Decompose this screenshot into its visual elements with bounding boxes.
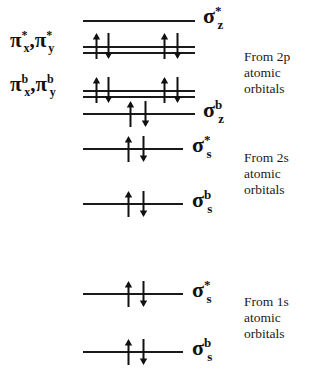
energy-level-sigma-bonding-s-1s — [83, 351, 183, 353]
origin-1s-line3: orbitals — [244, 326, 289, 342]
origin-2p-line3: orbitals — [244, 81, 290, 97]
pi-sub-y: y — [48, 41, 54, 55]
sigma-glyph: σ — [192, 277, 204, 302]
electron-arrow-down — [139, 281, 148, 307]
sigma-glyph: σ — [203, 97, 215, 122]
sigma-glyph: σ — [192, 132, 204, 157]
electron-arrow-up — [160, 33, 169, 59]
subscript-s: s — [206, 146, 211, 161]
superscript-bonding: b — [204, 335, 211, 350]
subscript-s: s — [207, 349, 212, 364]
pi-glyph-x: π — [10, 28, 22, 52]
superscript-star: * — [215, 3, 222, 18]
sigma-glyph: σ — [192, 187, 204, 212]
sigma-glyph: σ — [192, 335, 204, 360]
mo-energy-level-diagram: σ*z π*x,π*y πbx,πby σbz — [0, 0, 313, 376]
superscript-star: * — [204, 277, 211, 292]
energy-level-sigma-star-z — [83, 20, 195, 22]
pi-bonding-sup-y: b — [47, 72, 54, 86]
origin-caption-2s: From 2s atomic orbitals — [244, 150, 289, 198]
electron-arrow-down — [173, 77, 182, 103]
origin-2p-line2: atomic — [244, 65, 290, 81]
label-pi-star-xy: π*x,π*y — [10, 30, 54, 51]
origin-2s-line3: orbitals — [244, 182, 289, 198]
subscript-s: s — [206, 291, 211, 306]
origin-1s-line1: From 1s — [244, 294, 289, 310]
electron-arrow-down — [141, 101, 150, 127]
subscript-z: z — [218, 111, 224, 126]
electron-arrow-up — [126, 101, 135, 127]
electron-arrow-down — [104, 77, 113, 103]
electron-arrow-up — [160, 77, 169, 103]
origin-2s-line2: atomic — [244, 166, 289, 182]
electron-arrow-up — [92, 77, 101, 103]
electron-arrow-up — [124, 191, 133, 217]
origin-2p-line1: From 2p — [244, 49, 290, 65]
energy-level-sigma-star-s-2s — [83, 148, 183, 150]
energy-level-sigma-bonding-s-2s — [83, 203, 183, 205]
label-sigma-bonding-s-1s: σbs — [192, 337, 212, 359]
pi-star-sup-x: * — [22, 28, 28, 42]
label-sigma-star-z: σ*z — [203, 5, 223, 27]
electron-arrow-down — [139, 136, 148, 162]
electron-arrow-up — [92, 33, 101, 59]
energy-level-sigma-bonding-z — [83, 113, 195, 115]
pi-glyph-y: π — [35, 28, 47, 52]
pi-star-sup-y: * — [46, 28, 52, 42]
electron-arrow-up — [124, 281, 133, 307]
label-pi-bonding-xy: πbx,πby — [10, 74, 56, 95]
electron-arrow-down — [104, 33, 113, 59]
origin-caption-2p: From 2p atomic orbitals — [244, 49, 290, 97]
origin-2s-line1: From 2s — [244, 150, 289, 166]
subscript-s: s — [207, 201, 212, 216]
energy-level-sigma-star-s-1s — [83, 293, 183, 295]
superscript-bonding: b — [215, 97, 222, 112]
pi-sub-y: y — [50, 85, 56, 99]
subscript-z: z — [217, 17, 223, 32]
electron-arrow-down — [139, 339, 148, 365]
electron-arrow-up — [124, 136, 133, 162]
superscript-star: * — [204, 132, 211, 147]
label-sigma-bonding-s-2s: σbs — [192, 189, 212, 211]
superscript-bonding: b — [204, 187, 211, 202]
pi-glyph-y: π — [35, 72, 47, 96]
electron-arrow-down — [139, 191, 148, 217]
pi-bonding-sup-x: b — [22, 72, 29, 86]
sigma-glyph: σ — [203, 3, 215, 28]
origin-caption-1s: From 1s atomic orbitals — [244, 294, 289, 342]
electron-arrow-down — [173, 33, 182, 59]
origin-1s-line2: atomic — [244, 310, 289, 326]
label-sigma-bonding-z: σbz — [203, 99, 224, 121]
electron-arrow-up — [124, 339, 133, 365]
pi-glyph-x: π — [10, 72, 22, 96]
label-sigma-star-s-1s: σ*s — [192, 279, 212, 301]
label-sigma-star-s-2s: σ*s — [192, 134, 212, 156]
